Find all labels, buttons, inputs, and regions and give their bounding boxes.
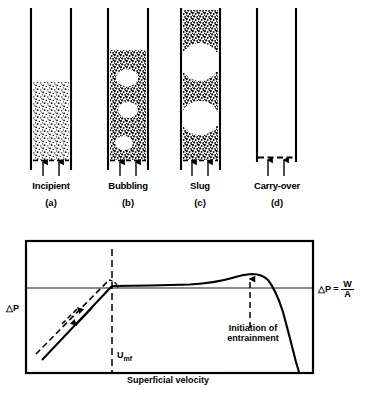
increasing-direction-arrow <box>62 308 78 324</box>
regime-label-carryover: Carry-over <box>241 180 313 191</box>
chart-frame <box>26 241 313 373</box>
regime-tag-a: (a) <box>16 197 86 208</box>
regime-tag-c: (c) <box>165 197 235 208</box>
entrainment-label-line1: Initiation of <box>229 323 278 333</box>
increasing-velocity-curve <box>36 280 109 354</box>
regime-label-slug: Slug <box>165 180 235 191</box>
umf-label: Umf <box>117 350 132 363</box>
weight-denominator: A <box>341 290 354 299</box>
weight-fraction: W A <box>341 280 354 300</box>
umf-subscript: mf <box>124 355 133 362</box>
regime-tag-d: (d) <box>241 197 313 208</box>
weight-line-label: △P = W A <box>318 280 354 300</box>
x-axis-label: Superficial velocity <box>88 375 248 385</box>
regime-label-incipient: Incipient <box>16 180 86 191</box>
regime-label-bubbling: Bubbling <box>93 180 163 191</box>
weight-line-prefix: △P = <box>318 284 339 294</box>
regime-column-slug <box>181 8 220 176</box>
fluidization-figure: Incipient (a) Bubbling (b) Slug (c) Carr… <box>0 0 365 403</box>
regime-column-incipient <box>31 8 71 176</box>
regime-column-carryover <box>257 8 296 176</box>
regime-column-bubbling <box>108 8 148 176</box>
y-axis-label: △P <box>6 303 19 313</box>
regime-tag-b: (b) <box>93 197 163 208</box>
entrainment-label: Initiation of entrainment <box>203 323 303 344</box>
entrainment-label-line2: entrainment <box>227 333 279 343</box>
